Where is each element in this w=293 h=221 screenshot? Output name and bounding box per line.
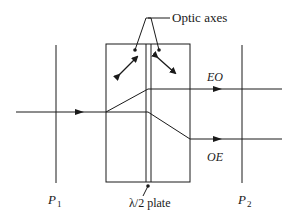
eo-beam-arrow-icon — [213, 86, 222, 92]
eo-label: EO — [206, 70, 223, 84]
optic-axes-label: Optic axes — [172, 10, 227, 25]
half-wave-plate-dot — [146, 184, 150, 188]
p1-label: P — [47, 192, 56, 207]
optical-diagram: Optic axes EO OE P 1 P 2 λ/2 plate — [0, 0, 293, 221]
oe-beam-path — [106, 112, 282, 139]
p2-subscript: 2 — [247, 199, 252, 209]
eo-beam-path — [106, 89, 282, 112]
crystal-box — [106, 44, 190, 182]
optic-axis-right-double-arrow-icon — [157, 57, 175, 73]
input-beam-arrow-icon — [75, 109, 84, 115]
p2-label: P — [237, 192, 246, 207]
optic-axis-dot-right — [157, 48, 161, 52]
oe-label: OE — [207, 150, 224, 164]
p1-subscript: 1 — [57, 199, 62, 209]
optic-axes-leader — [135, 18, 159, 50]
optic-axis-left-double-arrow-icon — [119, 57, 137, 75]
half-wave-plate-label: λ/2 plate — [129, 196, 170, 210]
oe-beam-arrow-icon — [213, 136, 222, 142]
optic-axis-dot-left — [133, 48, 137, 52]
